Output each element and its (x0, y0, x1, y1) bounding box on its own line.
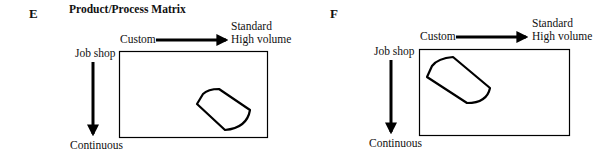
panel-e-graphics (93, 40, 268, 138)
product-region-shape-f (427, 57, 490, 103)
diagram-graphics (0, 0, 615, 158)
panel-label-e: E (29, 6, 38, 22)
panel-f-graphics (391, 37, 570, 136)
y-axis-start-label-e: Job shop (75, 47, 116, 60)
panel-label-f: F (330, 6, 338, 22)
y-axis-start-label-f: Job shop (374, 45, 415, 58)
matrix-frame-f (420, 50, 570, 136)
matrix-frame-e (120, 52, 268, 138)
y-axis-end-label-f: Continuous (369, 137, 422, 150)
x-axis-end-label-line1-e: Standard (231, 20, 272, 33)
y-axis-end-label-e: Continuous (70, 139, 123, 152)
x-axis-end-label-line1-f: Standard (532, 17, 573, 30)
x-axis-start-label-f: Custom (420, 30, 456, 43)
product-region-shape-e (197, 89, 250, 130)
x-axis-end-label-line2-f: High volume (532, 30, 592, 43)
x-axis-end-label-line2-e: High volume (231, 33, 291, 46)
diagram-title: Product/Process Matrix (69, 3, 186, 15)
x-axis-start-label-e: Custom (120, 33, 156, 46)
